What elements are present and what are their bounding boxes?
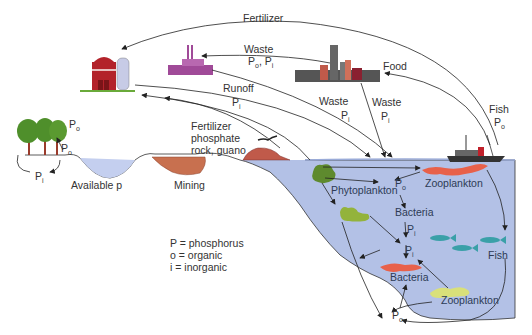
organic-subscript: o bbox=[255, 62, 259, 69]
label-fertilizer-rock-line2: phosphate bbox=[191, 133, 240, 145]
p-symbol: P bbox=[61, 142, 68, 154]
organic-subscript: o bbox=[68, 149, 72, 156]
label-waste-mid-pi: Pi bbox=[341, 110, 350, 122]
label-bacteria-lower: Bacteria bbox=[390, 272, 429, 284]
p-symbol: P bbox=[69, 118, 76, 130]
p-symbol: P bbox=[248, 55, 255, 67]
p-symbol: P bbox=[405, 244, 412, 256]
label-fish-top-po: Po bbox=[494, 117, 505, 129]
factory bbox=[168, 45, 213, 75]
ground-line bbox=[25, 153, 240, 178]
guano-island bbox=[243, 148, 290, 160]
label-fertilizer-top: Fertilizer bbox=[243, 13, 283, 25]
label-fertilizer-rock-line3: rock, guano bbox=[191, 145, 246, 157]
p-symbol: P bbox=[407, 223, 414, 235]
label-trees-po-bottom: Po bbox=[61, 143, 72, 155]
p-symbol: P bbox=[35, 170, 42, 182]
label-runoff-pi: Pi bbox=[232, 97, 241, 109]
label-bacteria-upper: Bacteria bbox=[395, 207, 434, 219]
p-symbol: P bbox=[392, 309, 399, 321]
organic-subscript: o bbox=[402, 184, 406, 191]
label-zooplankton-lower: Zooplankton bbox=[441, 295, 499, 307]
p-symbol: , P bbox=[259, 55, 272, 67]
label-available-p: Available p bbox=[71, 180, 122, 192]
legend-item-organic: o = organic bbox=[170, 249, 244, 261]
p-symbol: P bbox=[494, 116, 501, 128]
legend: P = phosphorus o = organic i = inorganic bbox=[170, 237, 244, 273]
label-po-bottom: Po bbox=[392, 310, 403, 322]
farm-barn bbox=[80, 57, 135, 92]
label-zooplankton-upper: Zooplankton bbox=[425, 178, 483, 190]
label-mining: Mining bbox=[174, 180, 205, 192]
inorganic-subscript: i bbox=[388, 117, 390, 124]
label-pi-upper: Pi bbox=[407, 224, 416, 236]
label-waste-factory: Waste bbox=[244, 44, 273, 56]
organic-subscript: o bbox=[76, 125, 80, 132]
label-trees-pi: Pi bbox=[35, 171, 44, 183]
inorganic-subscript: i bbox=[414, 230, 416, 237]
mining-pit bbox=[152, 157, 205, 175]
label-waste-factory-p: Po, Pi bbox=[248, 56, 273, 68]
label-phytoplankton: Phytoplankton bbox=[331, 185, 398, 197]
label-trees-po-top: Po bbox=[69, 119, 80, 131]
legend-item-phosphorus: P = phosphorus bbox=[170, 237, 244, 249]
trees bbox=[17, 118, 67, 155]
city bbox=[295, 45, 380, 82]
p-symbol: P bbox=[232, 96, 239, 108]
inorganic-subscript: i bbox=[239, 103, 241, 110]
label-pi-lower: Pi bbox=[405, 245, 414, 257]
label-waste-city: Waste bbox=[372, 97, 401, 109]
label-waste-city-pi: Pi bbox=[381, 111, 390, 123]
inorganic-subscript: i bbox=[42, 177, 44, 184]
p-symbol: P bbox=[341, 109, 348, 121]
label-food: Food bbox=[383, 61, 407, 73]
organic-subscript: o bbox=[399, 316, 403, 323]
label-fertilizer-rock-line1: Fertilizer bbox=[191, 121, 231, 133]
label-po-upper: Po bbox=[395, 178, 406, 190]
inorganic-subscript: i bbox=[412, 251, 414, 258]
inorganic-subscript: i bbox=[348, 116, 350, 123]
p-symbol: P bbox=[395, 177, 402, 189]
label-runoff: Runoff bbox=[223, 83, 254, 95]
phosphorus-cycle-diagram: Fertilizer Waste Po, Pi Food Runoff Pi W… bbox=[0, 0, 532, 335]
p-symbol: P bbox=[381, 110, 388, 122]
organic-subscript: o bbox=[501, 123, 505, 130]
label-waste-mid: Waste bbox=[319, 96, 348, 108]
label-fish-ocean: Fish bbox=[488, 250, 508, 262]
label-fish-top: Fish bbox=[489, 104, 509, 116]
legend-item-inorganic: i = inorganic bbox=[170, 261, 244, 273]
